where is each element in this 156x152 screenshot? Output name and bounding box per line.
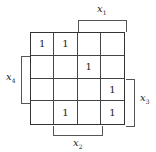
kmap-cell <box>31 56 54 79</box>
x2-bracket <box>53 126 103 136</box>
kmap-cell <box>31 79 54 102</box>
kmap-cell <box>101 33 124 56</box>
kmap-cell: 1 <box>78 56 101 79</box>
karnaugh-map-grid: 111111 <box>30 32 125 125</box>
x2-label: x2 <box>73 137 82 150</box>
kmap-cell: 1 <box>31 33 54 56</box>
kmap-cell <box>78 33 101 56</box>
x4-bracket <box>21 56 30 104</box>
kmap-cell: 1 <box>54 101 77 124</box>
kmap-cell: 1 <box>54 33 77 56</box>
kmap-cell <box>101 56 124 79</box>
kmap-cell <box>54 56 77 79</box>
kmap-cell <box>54 79 77 102</box>
kmap-cell <box>78 101 101 124</box>
x1-label: x1 <box>97 3 106 16</box>
x3-label: x3 <box>140 92 149 105</box>
x4-label: x4 <box>6 71 15 84</box>
x1-bracket <box>78 20 127 32</box>
kmap-cell <box>31 101 54 124</box>
x3-bracket <box>126 79 135 127</box>
kmap-cell: 1 <box>101 101 124 124</box>
kmap-cell <box>78 79 101 102</box>
kmap-cell: 1 <box>101 79 124 102</box>
